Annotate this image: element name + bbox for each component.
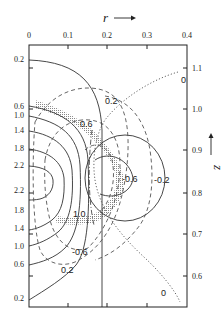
svg-text:1.1: 1.1 <box>192 64 202 73</box>
svg-text:0.7: 0.7 <box>192 230 202 239</box>
zero-contour <box>94 72 180 302</box>
svg-text:0.6: 0.6 <box>14 260 24 269</box>
svg-text:0.2: 0.2 <box>105 96 118 106</box>
z-axis-title: z <box>211 164 224 170</box>
top-tick-labels: 0 0.1 0.2 0.3 0.4 <box>27 31 192 40</box>
svg-text:0: 0 <box>181 75 186 85</box>
svg-text:0.6: 0.6 <box>192 272 202 281</box>
svg-text:1.4: 1.4 <box>14 126 24 135</box>
svg-text:0: 0 <box>161 288 166 298</box>
svg-text:2.2: 2.2 <box>14 186 24 195</box>
svg-text:1.0: 1.0 <box>14 242 24 251</box>
svg-text:1.4: 1.4 <box>14 224 24 233</box>
svg-text:0.3: 0.3 <box>142 31 152 40</box>
contour-chart: r z 0 0.1 0.2 0.3 0.4 1.1 1.0 0.9 0.8 0.… <box>0 0 224 319</box>
right-ticks <box>183 68 187 276</box>
svg-text:0.2: 0.2 <box>61 265 74 275</box>
solid-contours <box>29 60 165 307</box>
separatrix-line <box>89 130 94 225</box>
svg-text:2.2: 2.2 <box>14 161 24 170</box>
svg-text:1.0: 1.0 <box>14 111 24 120</box>
svg-text:1.0: 1.0 <box>192 105 202 114</box>
svg-text:-0.2: -0.2 <box>154 175 170 185</box>
svg-text:0: 0 <box>27 31 31 40</box>
left-level-labels: 0.2 0.6 1.0 1.4 1.8 2.2 2.2 1.8 1.4 1.0 … <box>14 55 24 303</box>
svg-text:1.8: 1.8 <box>14 144 24 153</box>
svg-text:0.2: 0.2 <box>14 294 24 303</box>
svg-text:0.2: 0.2 <box>14 55 24 64</box>
r-axis-title: r <box>103 10 109 25</box>
svg-text:0.1: 0.1 <box>63 31 73 40</box>
svg-text:0.4: 0.4 <box>182 31 192 40</box>
svg-text:1.0: 1.0 <box>73 209 86 219</box>
svg-text:0.9: 0.9 <box>192 146 202 155</box>
svg-text:1.8: 1.8 <box>14 206 24 215</box>
svg-text:0.6: 0.6 <box>80 119 93 129</box>
svg-text:-0.6: -0.6 <box>122 174 138 184</box>
right-tick-labels: 1.1 1.0 0.9 0.8 0.7 0.6 <box>192 64 202 281</box>
svg-text:0.2: 0.2 <box>102 31 112 40</box>
r-arrowhead-icon <box>131 16 136 21</box>
z-arrowhead-icon <box>209 133 214 138</box>
svg-text:0.6: 0.6 <box>14 102 24 111</box>
svg-text:-0.6: -0.6 <box>72 247 88 257</box>
svg-text:0.8: 0.8 <box>192 189 202 198</box>
